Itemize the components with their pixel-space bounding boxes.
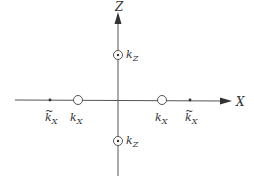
z-axis-label: Z bbox=[114, 0, 124, 14]
point-left-tilde-kx: ~ kX bbox=[45, 99, 58, 126]
z-axis: Z bbox=[114, 0, 124, 176]
x-axis-label: X bbox=[235, 95, 245, 109]
point-label: kX bbox=[155, 111, 168, 126]
point-bottom-kz: kZ bbox=[114, 134, 139, 149]
open-circle-marker-icon bbox=[74, 96, 83, 105]
wave-vector-diagram: X Z ~ kX kX kX ~ kX bbox=[0, 0, 254, 184]
point-right-kx: kX bbox=[155, 96, 168, 127]
point-right-tilde-kx: ~ kX bbox=[185, 99, 198, 126]
dot-marker-icon bbox=[189, 99, 192, 102]
point-label: kZ bbox=[126, 134, 139, 149]
point-label: kX bbox=[45, 111, 58, 126]
dot-marker-icon bbox=[49, 99, 52, 102]
point-label: kZ bbox=[126, 48, 139, 63]
open-circle-marker-icon bbox=[158, 96, 167, 105]
point-label: kX bbox=[70, 111, 83, 126]
x-axis-arrow-icon bbox=[220, 98, 232, 105]
point-label: kX bbox=[185, 111, 198, 126]
point-top-kz: kZ bbox=[114, 48, 139, 63]
